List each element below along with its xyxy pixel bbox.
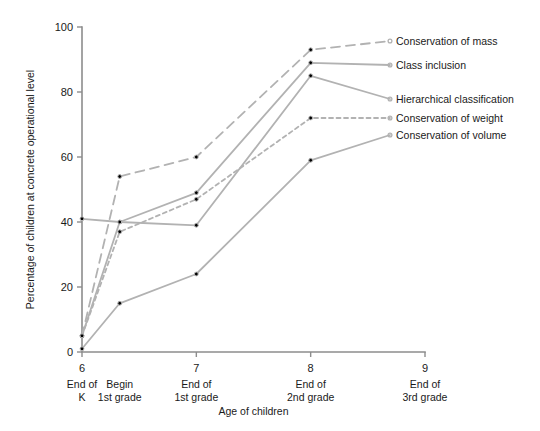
data-point-marker bbox=[309, 48, 313, 52]
data-point-marker bbox=[118, 175, 122, 179]
x-tick-label: 6 bbox=[79, 362, 85, 374]
axis-lines bbox=[82, 27, 425, 352]
y-tick-label: 80 bbox=[61, 86, 73, 98]
line-chart-svg: 0204060801006789 End ofKBegin1st gradeEn… bbox=[0, 0, 540, 431]
y-tick-label: 40 bbox=[61, 216, 73, 228]
axes-group bbox=[77, 27, 425, 357]
x-category-label-line2: 3rd grade bbox=[403, 391, 448, 403]
x-category-label-line2: 1st grade bbox=[174, 391, 218, 403]
data-point-marker bbox=[194, 191, 198, 195]
data-point-marker bbox=[309, 74, 313, 78]
y-tick-label: 20 bbox=[61, 281, 73, 293]
x-category-label-line1: End of bbox=[181, 378, 211, 390]
legend-label-conservation-of-volume: Conservation of volume bbox=[396, 129, 506, 141]
legend-group: Conservation of massClass inclusionHiera… bbox=[396, 35, 514, 141]
x-category-label-line1: End of bbox=[67, 378, 97, 390]
series-group bbox=[80, 39, 392, 351]
data-point-marker bbox=[194, 223, 198, 227]
y-tick-label: 60 bbox=[61, 151, 73, 163]
data-point-marker bbox=[194, 197, 198, 201]
x-category-label-line1: End of bbox=[295, 378, 325, 390]
data-point-marker bbox=[118, 220, 122, 224]
legend-connector-dot bbox=[388, 39, 392, 43]
data-point-marker bbox=[309, 61, 313, 65]
y-tick-label: 0 bbox=[67, 346, 73, 358]
tick-labels-group: 0204060801006789 bbox=[55, 21, 428, 374]
x-category-label-line2: 2nd grade bbox=[287, 391, 334, 403]
x-axis-title: Age of children bbox=[218, 405, 288, 417]
x-category-label-line1: Begin bbox=[106, 378, 133, 390]
x-tick-label: 7 bbox=[193, 362, 199, 374]
y-axis-title: Percentage of children at concrete opera… bbox=[24, 70, 36, 309]
legend-label-conservation-of-mass: Conservation of mass bbox=[396, 35, 498, 47]
chart-container: 0204060801006789 End ofKBegin1st gradeEn… bbox=[0, 0, 540, 431]
x-category-label-line1: End of bbox=[410, 378, 440, 390]
data-point-marker bbox=[80, 347, 84, 351]
x-category-label-line2: 1st grade bbox=[98, 391, 142, 403]
legend-label-conservation-of-weight: Conservation of weight bbox=[396, 112, 503, 124]
data-point-marker bbox=[194, 155, 198, 159]
y-tick-label: 100 bbox=[55, 21, 73, 33]
data-point-marker bbox=[80, 217, 84, 221]
x-tick-label: 9 bbox=[422, 362, 428, 374]
x-tick-label: 8 bbox=[308, 362, 314, 374]
x-category-label-line2: K bbox=[78, 391, 85, 403]
data-point-marker bbox=[194, 272, 198, 276]
data-point-marker bbox=[309, 158, 313, 162]
legend-label-class-inclusion: Class inclusion bbox=[396, 59, 466, 71]
data-point-marker bbox=[118, 230, 122, 234]
data-point-marker bbox=[80, 334, 84, 338]
series-line-class-inclusion bbox=[82, 63, 390, 336]
axis-titles-group: Percentage of children at concrete opera… bbox=[24, 70, 289, 417]
category-labels-group: End ofKBegin1st gradeEnd of1st gradeEnd … bbox=[67, 378, 448, 403]
data-point-marker bbox=[309, 116, 313, 120]
data-point-marker bbox=[118, 301, 122, 305]
legend-label-hierarchical-classification: Hierarchical classification bbox=[396, 93, 514, 105]
series-line-conservation-of-volume bbox=[82, 135, 390, 349]
